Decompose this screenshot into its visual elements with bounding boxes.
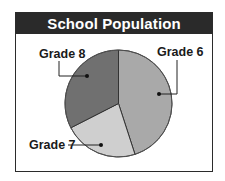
marker-dot (99, 143, 103, 147)
label-grade-8: Grade 8 (39, 47, 86, 61)
pie-chart: Grade 8 Grade 6 Grade 7 (0, 0, 225, 181)
marker-dot (85, 74, 89, 78)
label-grade-6: Grade 6 (157, 45, 204, 59)
marker-dot (157, 92, 161, 96)
